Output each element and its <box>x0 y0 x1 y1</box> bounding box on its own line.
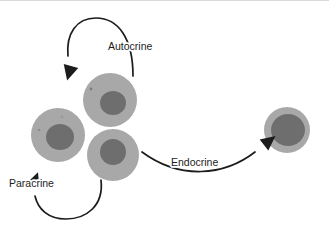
paracrine-label: Paracrine <box>9 177 54 189</box>
figure-canvas: Autocrine Autocrine Paracrine Paracrine … <box>0 0 329 225</box>
autocrine-label: Autocrine <box>108 40 153 52</box>
left-cell-nucleus <box>46 124 74 150</box>
cell-signalling-figure: Autocrine Autocrine Paracrine Paracrine … <box>0 0 329 225</box>
left-cell-granule-upper <box>60 115 63 118</box>
distant-target-cell <box>264 107 310 153</box>
top-cell-nucleus <box>100 91 126 115</box>
left-cell-granule-left <box>38 129 41 132</box>
bottom-cell <box>87 129 139 181</box>
target-cell-nucleus <box>271 114 305 146</box>
endocrine-label: Endocrine <box>171 156 218 168</box>
left-cell <box>31 108 85 162</box>
autocrine-arrowhead <box>60 64 78 82</box>
bottom-cell-nucleus <box>100 139 126 165</box>
top-cell <box>83 73 137 127</box>
top-cell-granule <box>90 88 93 91</box>
